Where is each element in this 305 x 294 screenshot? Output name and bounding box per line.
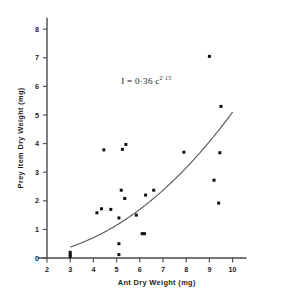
data-point [117, 216, 120, 219]
equation-base: I = 0·36 c [121, 76, 159, 86]
x-axis-title: Ant Dry Weight (mg) [118, 278, 196, 287]
equation-exponent: 2·15 [160, 75, 172, 81]
data-point [143, 232, 146, 235]
y-axis-title: Prey Item Dry Weight (mg) [16, 87, 25, 188]
data-point [69, 251, 72, 254]
data-point [124, 143, 127, 146]
y-tick-label: 7 [35, 53, 39, 62]
data-point [109, 208, 112, 211]
y-tick-label: 0 [35, 254, 39, 263]
x-tick-label: 7 [161, 265, 165, 274]
data-point [152, 189, 155, 192]
x-tick-label: 6 [138, 265, 142, 274]
data-point [144, 194, 147, 197]
data-point [218, 151, 221, 154]
x-tick-label: 9 [207, 265, 211, 274]
y-tick-label: 4 [35, 139, 39, 148]
y-tick-label: 3 [35, 168, 39, 177]
data-point [100, 207, 103, 210]
x-tick-label: 2 [45, 265, 49, 274]
data-point [102, 148, 105, 151]
x-tick-label: 8 [184, 265, 188, 274]
data-point [135, 214, 138, 217]
fitted-power-curve [70, 112, 232, 247]
data-point [123, 197, 126, 200]
data-point [117, 253, 120, 256]
data-point [121, 148, 124, 151]
x-tick-label: 5 [115, 265, 119, 274]
y-tick-label: 1 [35, 225, 39, 234]
data-point [208, 55, 211, 58]
data-point [95, 211, 98, 214]
data-point [213, 179, 216, 182]
data-point [217, 202, 220, 205]
y-axis-ticks: 012345678 [35, 25, 47, 263]
y-tick-label: 2 [35, 196, 39, 205]
x-tick-label: 10 [229, 265, 237, 274]
y-tick-label: 6 [35, 82, 39, 91]
data-point [117, 242, 120, 245]
x-axis-ticks: 2345678910 [45, 258, 237, 274]
data-point [182, 151, 185, 154]
x-tick-label: 3 [68, 265, 72, 274]
scatter-plot-figure: 0123456782345678910I = 0·36 c2·15Ant Dry… [0, 0, 305, 294]
data-point [220, 105, 223, 108]
data-point [120, 189, 123, 192]
chart-canvas: 0123456782345678910I = 0·36 c2·15Ant Dry… [0, 0, 305, 294]
equation-annotation: I = 0·36 c2·15 [121, 75, 171, 85]
y-tick-label: 5 [35, 111, 39, 120]
x-tick-label: 4 [91, 265, 95, 274]
y-tick-label: 8 [35, 25, 39, 34]
